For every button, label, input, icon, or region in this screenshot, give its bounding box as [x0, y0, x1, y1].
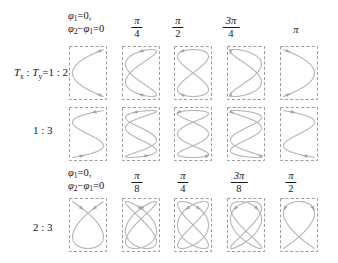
direction-arrow-icon: [285, 49, 290, 53]
lissajous-cell-ratio-1-2-phase-3π/4: [227, 46, 265, 100]
lissajous-cell-ratio-2-3-phase-3π/8: [227, 198, 265, 252]
direction-arrow-icon: [96, 49, 101, 53]
lissajous-curve: [284, 50, 315, 97]
lissajous-curve: [284, 202, 315, 249]
lissajous-cell-ratio-1-3-phase-π: [280, 107, 318, 161]
lissajous-curve: [178, 202, 209, 249]
lissajous-curve: [284, 111, 315, 158]
lissajous-cell-ratio-1-2-phase-π: [280, 46, 318, 100]
direction-arrow-icon: [138, 94, 143, 97]
lissajous-grid: [0, 0, 338, 263]
dashed-frame: [123, 108, 160, 161]
lissajous-curve: [73, 111, 104, 158]
lissajous-curve: [231, 50, 262, 97]
lissajous-cell-ratio-2-3-phase-π/4: [174, 198, 212, 252]
lissajous-figure: φ1=0, φ2−φ1=0 φ1=0, φ2−φ1=0 π4π23π4π π8π…: [0, 0, 338, 263]
direction-arrow-icon: [176, 110, 181, 114]
lissajous-cell-ratio-1-2-phase-π/4: [122, 46, 160, 100]
lissajous-curve: [178, 50, 209, 97]
lissajous-curve: [231, 111, 262, 158]
lissajous-curve: [73, 202, 104, 249]
dashed-frame: [70, 47, 107, 100]
direction-arrow-icon: [96, 94, 101, 98]
direction-arrow-icon: [138, 49, 143, 52]
lissajous-curve: [73, 50, 104, 97]
lissajous-cell-ratio-2-3-phase-π/2: [280, 198, 318, 252]
dashed-frame: [228, 108, 265, 161]
lissajous-curve: [178, 111, 209, 158]
direction-arrow-icon: [285, 94, 290, 98]
lissajous-cell-ratio-1-2-phase-0: [69, 46, 107, 100]
lissajous-cell-ratio-1-3-phase-3π/4: [227, 107, 265, 161]
lissajous-curve: [126, 50, 157, 97]
direction-arrow-icon: [179, 49, 184, 52]
lissajous-cell-ratio-1-3-phase-0: [69, 107, 107, 161]
direction-arrow-icon: [179, 94, 184, 97]
lissajous-cell-ratio-2-3-phase-π/8: [122, 198, 160, 252]
dashed-frame: [281, 47, 318, 100]
direction-arrow-icon: [205, 154, 210, 158]
lissajous-cell-ratio-1-3-phase-π/2: [174, 107, 212, 161]
dashed-frame: [175, 108, 212, 161]
lissajous-cell-ratio-1-3-phase-π/4: [122, 107, 160, 161]
lissajous-cell-ratio-2-3-phase-0: [69, 198, 107, 252]
lissajous-curve: [126, 111, 157, 158]
lissajous-cell-ratio-1-2-phase-π/2: [174, 46, 212, 100]
